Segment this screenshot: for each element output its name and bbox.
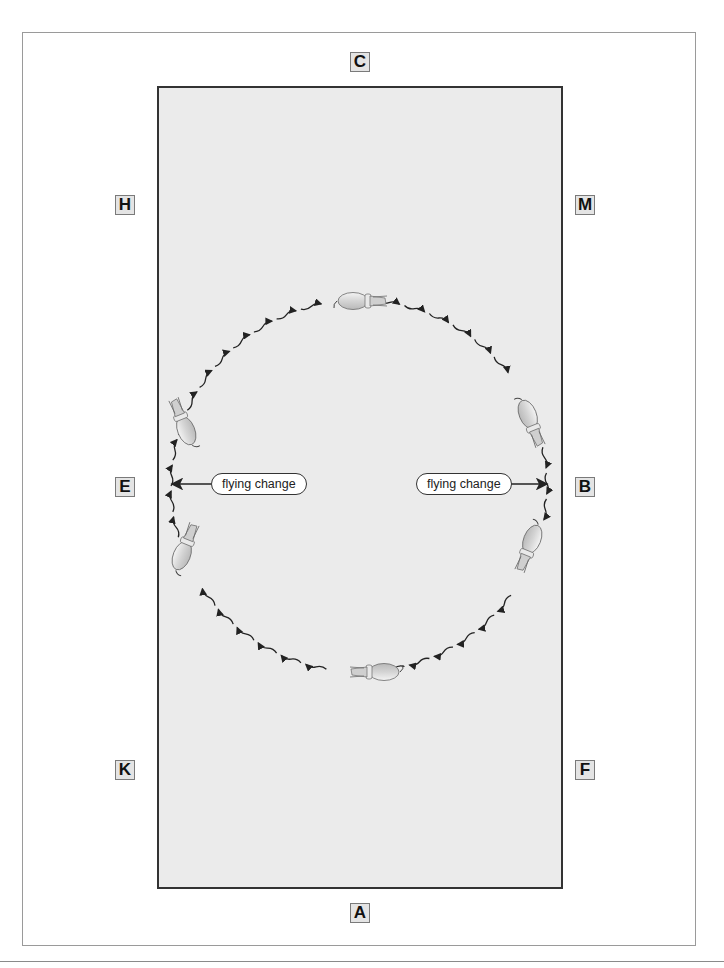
circle-path-overlay — [0, 0, 724, 968]
horse-bottom — [350, 664, 403, 681]
horse-right-upper — [513, 393, 549, 449]
horse-top — [334, 293, 387, 310]
horse-left-upper — [166, 396, 202, 452]
flying-change-left-label: flying change — [211, 473, 307, 495]
horse-left-lower — [167, 521, 203, 577]
flying-change-right-label: flying change — [416, 473, 512, 495]
horse-right-lower — [512, 518, 548, 574]
